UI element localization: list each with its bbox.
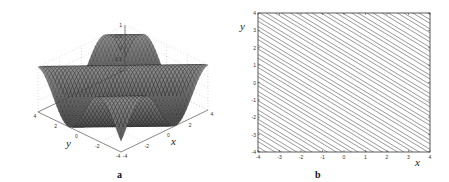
z-tick-label: 0 <box>119 45 122 51</box>
contour-line <box>258 40 430 144</box>
contour-line <box>258 30 430 134</box>
y-tick-label: -4 <box>252 149 257 155</box>
x-tick-label: 4 <box>211 111 214 117</box>
contour-line <box>258 77 430 181</box>
y-tick-label: -2 <box>252 114 257 120</box>
contour-line <box>258 27 430 131</box>
surface-mesh <box>38 34 208 141</box>
contour-line <box>258 73 430 177</box>
x-axis-label: x <box>170 135 176 147</box>
contour-line <box>258 123 430 182</box>
x-tick-label: 3 <box>407 154 410 160</box>
contour-line <box>258 0 430 51</box>
x-tick-label: 0 <box>343 154 346 160</box>
contour-line <box>258 160 430 182</box>
y-axis-label: y <box>239 20 245 32</box>
z-tick-label: 1 <box>119 22 122 28</box>
y-tick-label: 4 <box>34 113 37 119</box>
contour-line <box>258 0 430 1</box>
x-tick-label: -1 <box>320 154 325 160</box>
y-tick-label: -3 <box>252 132 257 138</box>
x-axis-label: x <box>414 156 420 168</box>
y-tick-label: 4 <box>253 10 256 16</box>
y-tick-label: -4 <box>116 153 121 159</box>
contour-line <box>258 91 430 182</box>
contour-line <box>258 110 430 182</box>
contour-line <box>258 0 430 57</box>
z-tick-label: -0.5 <box>113 56 122 62</box>
contour-line <box>258 12 430 116</box>
contour-line <box>258 0 430 79</box>
contour-line <box>258 166 430 182</box>
y-tick-label: 3 <box>253 27 256 33</box>
contour-line <box>258 101 430 182</box>
y-tick-label: 1 <box>253 62 256 68</box>
contour-line <box>258 169 430 182</box>
y-tick-label: -1 <box>252 97 257 103</box>
x-tick-label: -4 <box>256 154 261 160</box>
contour-line <box>258 0 430 20</box>
contour-line <box>258 0 430 10</box>
y-tick-label: 0 <box>253 80 256 86</box>
y-tick-label: 2 <box>54 123 57 129</box>
y-tick-label: -2 <box>95 143 100 149</box>
y-tick-label: 2 <box>253 45 256 51</box>
surface-plot: 10.50-0.5-1420-2-4-4-2024 x y a <box>0 0 225 182</box>
x-tick-label: 2 <box>386 154 389 160</box>
y-axis-label: y <box>65 137 71 149</box>
contour-line <box>258 36 430 140</box>
panel-label-a: a <box>117 169 122 180</box>
contour-plot-panel: -4-3-2-10123443210-1-2-3-4 y x b <box>225 0 449 182</box>
contour-line <box>258 21 430 125</box>
contour-line <box>258 17 430 121</box>
panel-label-b: b <box>315 169 321 180</box>
x-tick-label: 2 <box>189 122 192 128</box>
y-tick-label: 0 <box>75 133 78 139</box>
contour-line <box>258 8 430 112</box>
contour-line <box>258 3 430 107</box>
contour-line <box>258 45 430 149</box>
contour-line <box>258 58 430 162</box>
x-tick-label: -2 <box>299 154 304 160</box>
z-tick-label: 0.5 <box>115 33 122 39</box>
x-tick-label: 4 <box>429 154 432 160</box>
surface-plot-panel: 10.50-0.5-1420-2-4-4-2024 x y a <box>0 0 225 182</box>
contour-line <box>258 0 430 23</box>
z-tick-label: -1 <box>118 67 123 73</box>
contour-plot: -4-3-2-10123443210-1-2-3-4 y x b <box>225 0 449 182</box>
x-tick-label: 0 <box>167 132 170 138</box>
contour-line <box>258 54 430 158</box>
x-tick-label: -2 <box>145 143 150 149</box>
x-tick-label: -4 <box>123 153 128 159</box>
contour-line <box>258 0 430 5</box>
contour-line <box>258 156 430 182</box>
x-tick-label: -3 <box>277 154 282 160</box>
x-tick-label: 1 <box>364 154 367 160</box>
contour-line <box>258 0 430 14</box>
contour-line <box>258 49 430 153</box>
